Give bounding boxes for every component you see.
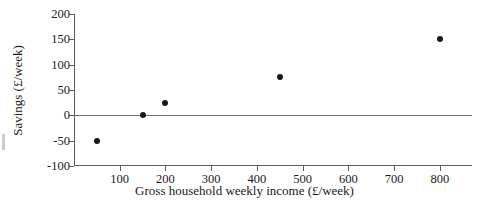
x-axis-title: Gross household weekly income (£/week) bbox=[0, 184, 489, 197]
y-tick-label: 150 bbox=[51, 33, 70, 46]
x-tick-mark bbox=[348, 166, 349, 171]
data-point bbox=[277, 74, 283, 80]
y-tick-label: 100 bbox=[51, 58, 70, 71]
x-tick-mark bbox=[440, 166, 441, 171]
y-axis-spine bbox=[74, 14, 75, 166]
y-tick-label: -100 bbox=[47, 160, 70, 173]
data-point bbox=[94, 138, 100, 144]
x-tick-mark bbox=[394, 166, 395, 171]
y-tick-label: 0 bbox=[64, 109, 70, 122]
x-tick-mark bbox=[120, 166, 121, 171]
y-axis-title: Savings (£/week) bbox=[11, 16, 24, 166]
plot-area: -100-50050100150200100200300400500600700… bbox=[74, 14, 472, 166]
x-tick-mark bbox=[211, 166, 212, 171]
data-point bbox=[162, 100, 168, 106]
x-tick-mark bbox=[257, 166, 258, 171]
x-axis-spine bbox=[74, 165, 472, 166]
y-tick-label: -50 bbox=[53, 134, 70, 147]
y-tick-label: 200 bbox=[51, 8, 70, 21]
page-edge-artifact bbox=[2, 134, 5, 150]
data-point bbox=[140, 112, 146, 118]
scatter-plot-figure: -100-50050100150200100200300400500600700… bbox=[0, 0, 489, 205]
x-tick-mark bbox=[303, 166, 304, 171]
y-tick-label: 50 bbox=[58, 84, 71, 97]
data-point bbox=[437, 36, 443, 42]
x-tick-mark bbox=[165, 166, 166, 171]
zero-reference-line bbox=[74, 115, 472, 116]
